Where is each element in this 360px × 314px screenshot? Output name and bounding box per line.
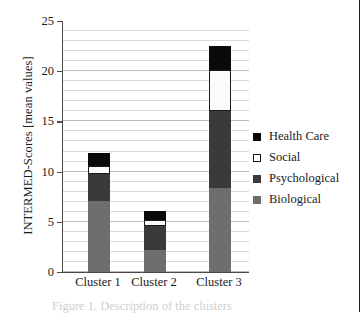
legend-item-bio[interactable]: Biological (253, 189, 339, 210)
bar-segment-social[interactable] (88, 166, 110, 174)
y-tick-mark (57, 272, 63, 273)
legend-label: Psychological (269, 171, 339, 186)
stacked-bar[interactable] (144, 211, 166, 272)
legend-label: Social (269, 150, 300, 165)
bar-segment-social[interactable] (209, 70, 231, 111)
legend: Health CareSocialPsychologicalBiological (253, 126, 339, 210)
y-tick-mark (57, 121, 63, 122)
stacked-bar[interactable] (88, 153, 110, 272)
y-tick-mark (57, 172, 63, 173)
legend-item-health[interactable]: Health Care (253, 126, 339, 147)
y-tick-label: 20 (42, 64, 55, 79)
bar-segment-health[interactable] (144, 211, 166, 220)
y-tick-label: 10 (42, 164, 55, 179)
legend-swatch-icon (253, 175, 261, 183)
legend-swatch-icon (253, 133, 261, 141)
bar-segment-psych[interactable] (209, 111, 231, 187)
y-tick-label: 5 (48, 214, 54, 229)
bar-segment-bio[interactable] (88, 201, 110, 272)
bar-segment-psych[interactable] (144, 226, 166, 250)
stacked-bar[interactable] (209, 46, 231, 272)
legend-item-psych[interactable]: Psychological (253, 168, 339, 189)
gridline (63, 30, 249, 31)
legend-swatch-icon (253, 154, 261, 162)
y-tick-label: 15 (42, 114, 55, 129)
legend-item-social[interactable]: Social (253, 147, 339, 168)
bar-segment-psych[interactable] (88, 174, 110, 201)
legend-swatch-icon (253, 196, 261, 204)
legend-label: Health Care (269, 129, 329, 144)
y-tick-label: 0 (48, 265, 54, 280)
gridline (63, 40, 249, 41)
y-tick-mark (57, 222, 63, 223)
bar-segment-health[interactable] (209, 46, 231, 70)
y-tick-mark (57, 71, 63, 72)
y-tick-label: 25 (42, 14, 55, 29)
x-axis-label-3: Cluster 3 (176, 275, 262, 290)
bar-segment-bio[interactable] (209, 188, 231, 272)
y-axis-title: INTERMED-Scores [mean values] (21, 41, 36, 251)
bar-segment-health[interactable] (88, 153, 110, 166)
legend-label: Biological (269, 192, 321, 207)
y-tick-mark (57, 21, 63, 22)
bar-segment-bio[interactable] (144, 250, 166, 272)
figure-caption: Figure 1. Description of the clusters (52, 299, 342, 314)
plot-area: 0510152025 (62, 21, 249, 273)
bar-segment-social[interactable] (144, 220, 166, 226)
